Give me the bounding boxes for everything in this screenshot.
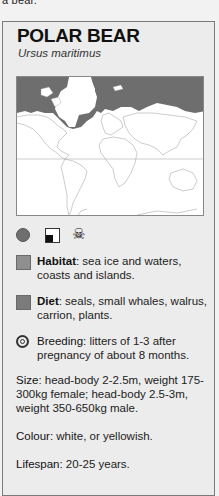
scientific-name: Ursus maritimus xyxy=(18,47,101,59)
lifespan-value: : 20-25 years. xyxy=(59,458,129,470)
range-map xyxy=(16,76,204,216)
colour-value: : white, or yellowish. xyxy=(50,430,153,442)
half-square-status-icon xyxy=(45,228,60,243)
habitat-swatch-icon xyxy=(16,255,31,270)
diet-text: Diet: seals, small whales, walrus, carri… xyxy=(37,294,207,322)
size-text: Size: head-body 2-2.5m, weight 175-300kg… xyxy=(16,373,208,415)
status-icons: ☠ xyxy=(16,228,206,246)
diet-value: : seals, small whales, walrus, carrion, … xyxy=(37,295,207,321)
diet-swatch-icon xyxy=(16,295,31,310)
breeding-label: Breeding xyxy=(37,335,83,347)
breeding-text: Breeding: litters of 1-3 after pregnancy… xyxy=(37,334,207,362)
species-title: POLAR BEAR xyxy=(17,25,140,47)
size-label: Size xyxy=(16,374,38,386)
colour-label: Colour xyxy=(16,430,50,442)
colour-text: Colour: white, or yellowish. xyxy=(16,429,208,443)
diet-label: Diet xyxy=(37,295,59,307)
cut-off-text: a bear. xyxy=(2,0,37,6)
species-card: POLAR BEAR Ursus maritimus xyxy=(2,21,215,496)
circle-status-icon xyxy=(16,228,30,242)
world-map-icon xyxy=(17,77,204,216)
lifespan-label: Lifespan xyxy=(16,458,59,470)
size-value: : head-body 2-2.5m, weight 175-300kg fem… xyxy=(16,374,204,414)
breeding-ring-icon xyxy=(16,335,29,348)
habitat-text: Habitat: sea ice and waters, coasts and … xyxy=(37,254,207,282)
lifespan-text: Lifespan: 20-25 years. xyxy=(16,457,208,471)
habitat-label: Habitat xyxy=(37,255,76,267)
skull-crossbones-icon: ☠ xyxy=(72,225,85,243)
